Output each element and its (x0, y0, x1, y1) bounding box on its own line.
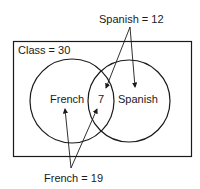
french-total-label: French = 19 (44, 172, 103, 184)
venn-diagram: Spanish = 12 Class = 30 French 7 Spanish… (0, 0, 200, 189)
intersection-value: 7 (98, 93, 104, 105)
french-arrow-only (65, 109, 71, 168)
spanish-total-label: Spanish = 12 (99, 13, 164, 25)
french-arrow-intersection (71, 109, 97, 168)
french-set-label: French (50, 93, 84, 105)
spanish-arrow-intersection (106, 27, 130, 88)
spanish-arrow-only (130, 27, 135, 87)
class-total-label: Class = 30 (18, 44, 70, 56)
spanish-set-label: Spanish (118, 93, 158, 105)
